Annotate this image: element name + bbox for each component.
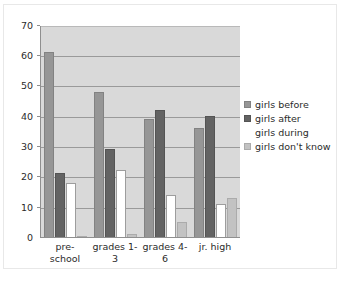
legend-item-label: girls before xyxy=(255,98,309,111)
bar xyxy=(227,198,237,237)
bar-chart-figure: 70 60 50 40 30 20 10 0 xyxy=(0,0,343,281)
bar xyxy=(216,204,226,237)
x-axis-category-line: 6 xyxy=(141,253,189,265)
y-axis-tick-label: 70 xyxy=(3,21,33,31)
y-axis: 70 60 50 40 30 20 10 0 xyxy=(4,5,38,241)
legend-item[interactable]: girls before xyxy=(244,98,342,112)
y-axis-tick-label: 50 xyxy=(3,81,33,91)
bar xyxy=(205,116,215,237)
bar-group xyxy=(91,26,141,237)
legend-item[interactable]: girls don't know xyxy=(244,140,342,154)
legend-item-label: girls don't know xyxy=(255,140,331,153)
bar-group xyxy=(41,26,91,237)
y-axis-tick-label: 60 xyxy=(3,51,33,61)
x-axis-category-label: grades 1-3 xyxy=(90,241,140,275)
bar-group xyxy=(141,26,191,237)
bar xyxy=(155,110,165,237)
bar xyxy=(77,236,87,237)
bar xyxy=(94,92,104,237)
bar xyxy=(116,170,126,237)
figure-frame: 70 60 50 40 30 20 10 0 xyxy=(3,4,337,269)
y-axis-tick-label: 30 xyxy=(3,142,33,152)
chart-legend: girls beforegirls aftergirls duringgirls… xyxy=(244,98,342,154)
bar xyxy=(55,173,65,237)
x-axis-category-label: jr. high xyxy=(190,241,240,275)
bar xyxy=(44,52,54,237)
legend-item-label: girls during xyxy=(255,126,309,139)
legend-item-label: girls after xyxy=(255,112,301,125)
x-axis-category-line: grades 1- xyxy=(91,241,139,253)
bar-groups xyxy=(41,26,240,237)
y-axis-tick-label: 20 xyxy=(3,172,33,182)
x-axis-labels: pre-schoolgrades 1-3grades 4-6jr. high xyxy=(40,241,240,275)
y-axis-tick-label: 0 xyxy=(3,233,33,243)
legend-item[interactable]: girls during xyxy=(244,126,342,140)
x-axis-category-label: grades 4-6 xyxy=(140,241,190,275)
x-axis-category-label: pre-school xyxy=(40,241,90,275)
legend-swatch-icon xyxy=(244,129,251,136)
y-axis-tick-label: 40 xyxy=(3,112,33,122)
x-axis-category-line: jr. high xyxy=(191,241,239,253)
plot-area xyxy=(40,26,240,238)
bar-group xyxy=(190,26,240,237)
bar xyxy=(127,234,137,237)
x-axis-category-line: pre- xyxy=(41,241,89,253)
legend-swatch-icon xyxy=(244,101,251,108)
x-axis-category-line: grades 4- xyxy=(141,241,189,253)
x-axis-category-line: 3 xyxy=(91,253,139,265)
y-axis-tick-label: 10 xyxy=(3,203,33,213)
legend-item[interactable]: girls after xyxy=(244,112,342,126)
legend-swatch-icon xyxy=(244,115,251,122)
bar xyxy=(105,149,115,237)
bar xyxy=(166,195,176,237)
x-axis-category-line: school xyxy=(41,253,89,265)
bar xyxy=(177,222,187,237)
bar xyxy=(66,183,76,238)
legend-swatch-icon xyxy=(244,143,251,150)
bar xyxy=(144,119,154,237)
bar xyxy=(194,128,204,237)
